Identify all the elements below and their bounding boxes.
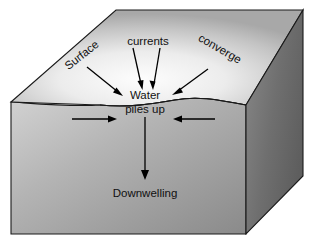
label-water: Water bbox=[130, 89, 160, 101]
block-diagram-svg: Surface currents converge Water piles up… bbox=[0, 0, 313, 249]
downwelling-diagram: Surface currents converge Water piles up… bbox=[0, 0, 313, 249]
label-downwelling: Downwelling bbox=[113, 187, 178, 199]
label-currents: currents bbox=[127, 35, 169, 47]
label-piles-up: piles up bbox=[125, 103, 165, 115]
